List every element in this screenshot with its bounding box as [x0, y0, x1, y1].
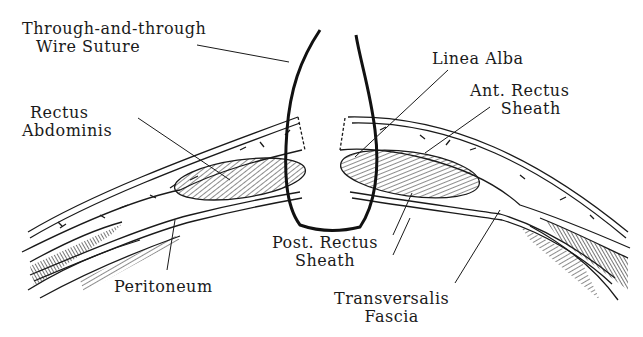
left-abdominal-wall	[22, 117, 308, 298]
label-linea-alba: Linea Alba	[432, 50, 524, 68]
label-ant-line2: Sheath	[470, 100, 569, 118]
label-ant-rectus-sheath: Ant. Rectus Sheath	[470, 82, 569, 118]
label-post-rectus-sheath: Post. Rectus Sheath	[272, 234, 378, 270]
label-rectus-line1: Rectus	[22, 104, 112, 122]
label-transversalis-fascia: Transversalis Fascia	[334, 290, 449, 326]
right-rectus-muscle	[338, 142, 483, 205]
label-rectus-abdominis: Rectus Abdominis	[22, 104, 112, 140]
right-abdominal-wall	[338, 117, 630, 300]
label-ant-line1: Ant. Rectus	[470, 82, 569, 100]
label-post-line2: Sheath	[272, 252, 378, 270]
label-suture-line1: Through-and-through	[22, 20, 206, 38]
label-wire-suture: Through-and-through Wire Suture	[22, 20, 206, 56]
label-suture-line2: Wire Suture	[22, 38, 206, 56]
label-linea-alba-text: Linea Alba	[432, 50, 524, 68]
label-peritoneum: Peritoneum	[114, 278, 213, 296]
label-post-line1: Post. Rectus	[272, 234, 378, 252]
label-transversalis-line1: Transversalis	[334, 290, 449, 308]
wire-suture-loop	[286, 30, 377, 231]
label-peritoneum-text: Peritoneum	[114, 278, 213, 296]
label-transversalis-line2: Fascia	[334, 308, 449, 326]
label-rectus-line2: Abdominis	[22, 122, 112, 140]
